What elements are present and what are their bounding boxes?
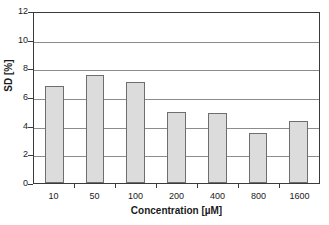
bar[interactable] bbox=[208, 113, 227, 183]
bar-slot bbox=[156, 13, 197, 183]
x-axis-tick-label: 800 bbox=[238, 190, 279, 202]
x-axis-tick-label: 1600 bbox=[279, 190, 320, 202]
bar-slot bbox=[75, 13, 116, 183]
bar[interactable] bbox=[167, 112, 186, 183]
x-axis-tick-label: 400 bbox=[197, 190, 238, 202]
bars-container bbox=[34, 13, 319, 183]
x-axis-tick-marks bbox=[33, 184, 320, 188]
x-axis-tick-label: 50 bbox=[74, 190, 115, 202]
x-axis-tick-mark bbox=[74, 184, 75, 188]
x-axis-title: Concentration [µM] bbox=[33, 205, 320, 216]
x-axis-tick-slot bbox=[197, 184, 238, 188]
bar[interactable] bbox=[249, 133, 268, 183]
bar-slot bbox=[238, 13, 279, 183]
bar-chart-figure: SD [%] 024681012 10501002004008001600 Co… bbox=[0, 0, 329, 225]
x-axis-tick-label: 10 bbox=[33, 190, 74, 202]
bar[interactable] bbox=[289, 121, 308, 183]
bar-slot bbox=[278, 13, 319, 183]
x-axis-tick-slot bbox=[74, 184, 115, 188]
x-axis-tick-slot bbox=[33, 184, 74, 188]
bar-slot bbox=[34, 13, 75, 183]
x-axis-tick-slot bbox=[238, 184, 279, 188]
x-axis-tick-mark bbox=[197, 184, 198, 188]
x-axis-tick-mark bbox=[115, 184, 116, 188]
x-axis-tick-mark bbox=[279, 184, 280, 188]
y-axis-tick-marks bbox=[0, 12, 33, 184]
x-axis-tick-slot bbox=[115, 184, 156, 188]
x-axis-tick-slot bbox=[279, 184, 320, 188]
plot-area bbox=[33, 12, 320, 184]
x-axis-tick-mark bbox=[156, 184, 157, 188]
bar-slot bbox=[115, 13, 156, 183]
bar[interactable] bbox=[126, 82, 145, 183]
x-axis-tick-mark bbox=[238, 184, 239, 188]
bar[interactable] bbox=[86, 75, 105, 183]
x-axis-tick-slot bbox=[156, 184, 197, 188]
x-axis-tick-label: 100 bbox=[115, 190, 156, 202]
bar[interactable] bbox=[45, 86, 64, 183]
x-axis-tick-label: 200 bbox=[156, 190, 197, 202]
x-axis-tick-labels: 10501002004008001600 bbox=[33, 190, 320, 202]
bar-slot bbox=[197, 13, 238, 183]
